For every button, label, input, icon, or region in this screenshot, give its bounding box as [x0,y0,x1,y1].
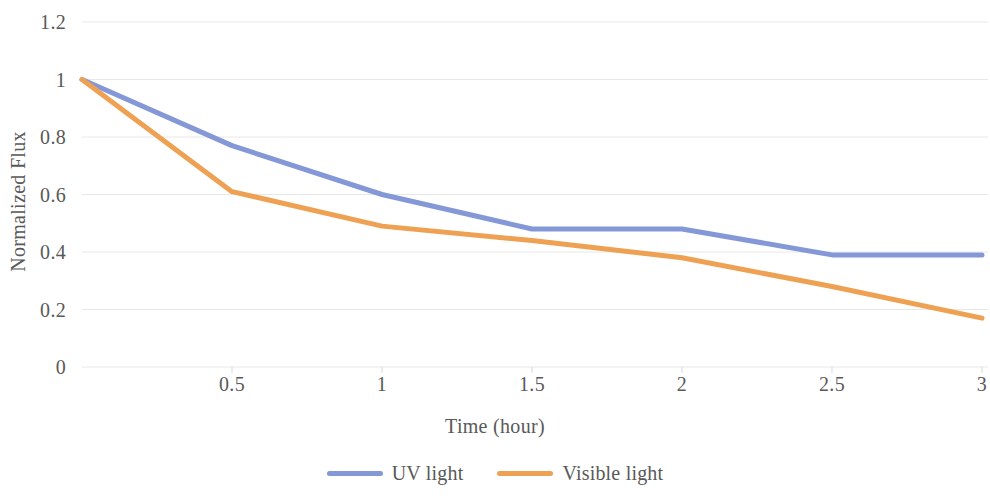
legend-color-swatch [327,471,383,476]
plot-area: 00.20.40.60.811.2 0.511.522.53 [0,0,990,440]
legend-color-swatch [497,471,553,476]
y-axis-title: Normalized Flux [7,122,30,282]
series-line-visible-light [82,80,982,319]
x-axis-tick-label: 2.5 [792,374,872,394]
x-axis-tick-label: 3 [942,374,990,394]
x-axis-tick-label: 1 [342,374,422,394]
y-axis-tick-label: 0.2 [0,300,66,320]
legend-label: UV light [392,463,464,483]
gridlines [82,22,988,367]
y-axis-tick-label: 0 [0,357,66,377]
x-axis-tick-label: 0.5 [192,374,272,394]
x-axis-tick-marks [232,367,982,373]
chart-legend: UV lightVisible light [0,463,990,483]
y-axis-tick-label: 1.2 [0,12,66,32]
x-axis-title: Time (hour) [0,415,990,438]
series-line-uv-light [82,80,982,255]
legend-label: Visible light [562,463,663,483]
series-lines [82,80,982,319]
legend-item[interactable]: Visible light [497,463,663,483]
legend-item[interactable]: UV light [327,463,464,483]
line-chart: 00.20.40.60.811.2 0.511.522.53 Normalize… [0,0,990,501]
x-axis-tick-label: 2 [642,374,722,394]
x-axis-tick-label: 1.5 [492,374,572,394]
y-axis-tick-label: 1 [0,70,66,90]
